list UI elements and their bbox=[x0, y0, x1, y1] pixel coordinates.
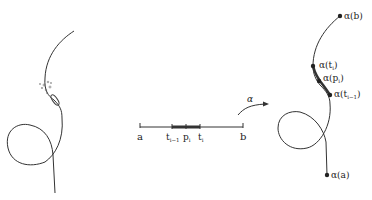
interval bbox=[140, 123, 243, 129]
map-label: α bbox=[247, 94, 253, 104]
point-alpha-pi bbox=[317, 79, 321, 83]
label-alpha-b: α(b) bbox=[344, 11, 363, 21]
magnified-segment-icon bbox=[50, 94, 61, 107]
point-alpha-b bbox=[338, 14, 342, 18]
interval-start-label: a bbox=[137, 131, 143, 142]
left-curve bbox=[7, 31, 74, 193]
point-alpha-ti bbox=[311, 64, 315, 68]
label-alpha-pi: α(pi) bbox=[323, 73, 344, 84]
tick-p-i: pi bbox=[183, 132, 191, 143]
curve-length-diagram: a b ti−1 pi ti α α(b) α(ti) α(pi) α(ti−1… bbox=[0, 0, 372, 200]
label-alpha-tim1: α(ti−1) bbox=[334, 89, 361, 100]
label-alpha-ti: α(ti) bbox=[319, 60, 338, 71]
point-alpha-tim1 bbox=[328, 93, 332, 97]
tick-t-im1: ti−1 bbox=[166, 132, 180, 143]
interval-end-label: b bbox=[240, 131, 246, 142]
map-arrow-icon bbox=[238, 102, 269, 116]
tick-t-i: ti bbox=[198, 132, 204, 143]
label-alpha-a: α(a) bbox=[331, 170, 349, 180]
point-alpha-a bbox=[325, 173, 329, 177]
